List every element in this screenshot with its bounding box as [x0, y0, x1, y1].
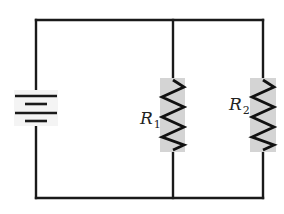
resistor-r1: R1 [139, 78, 185, 152]
resistor-r2-label: R2 [228, 94, 250, 117]
battery-icon [14, 90, 58, 126]
resistor-r2: R2 [228, 78, 276, 152]
resistor-r1-label: R1 [139, 108, 161, 131]
circuit-diagram: R1 R2 [0, 0, 284, 214]
